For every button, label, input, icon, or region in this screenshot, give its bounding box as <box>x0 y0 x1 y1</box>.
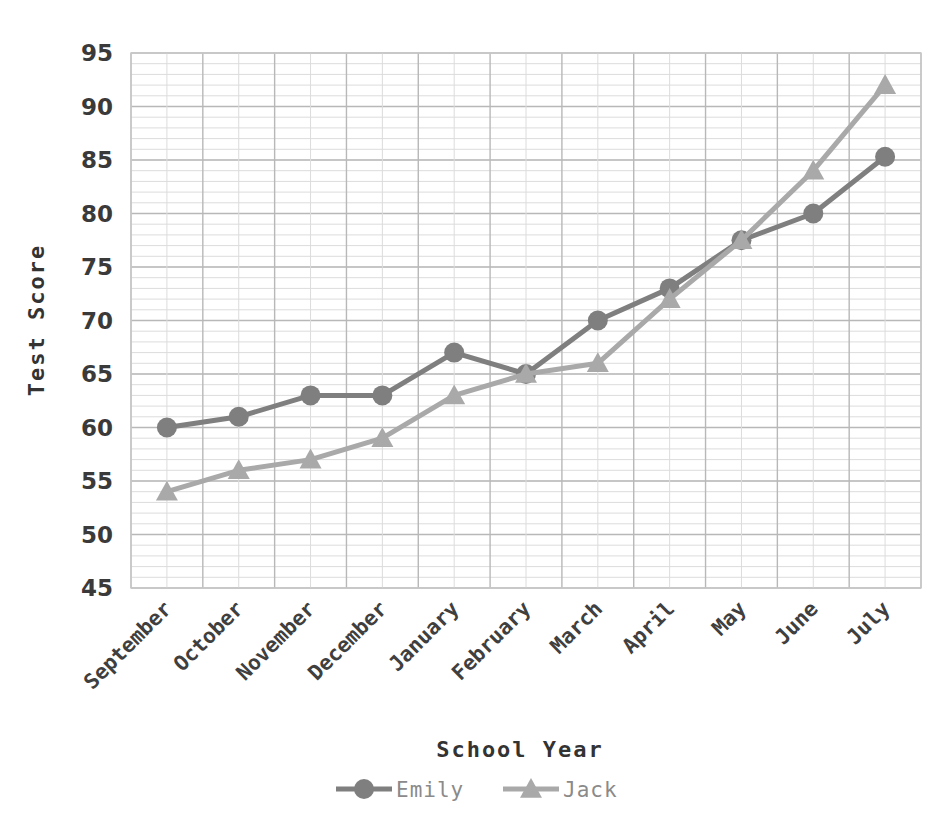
x-axis-title: School Year <box>436 737 604 762</box>
y-tick-label: 55 <box>81 468 113 494</box>
data-point-emily <box>372 385 392 405</box>
y-tick-label: 70 <box>81 308 113 334</box>
y-axis-title: Test Score <box>24 244 49 396</box>
y-tick-label: 60 <box>81 415 113 441</box>
y-tick-label: 50 <box>81 522 113 548</box>
y-tick-label: 65 <box>81 361 113 387</box>
data-point-emily <box>444 343 464 363</box>
chart-canvas: 4550556065707580859095 SeptemberOctoberN… <box>0 0 948 838</box>
data-point-emily <box>157 418 177 438</box>
data-point-emily <box>229 407 249 427</box>
data-point-emily <box>301 385 321 405</box>
y-tick-label: 95 <box>81 40 113 66</box>
y-tick-label: 85 <box>81 147 113 173</box>
y-tick-label: 75 <box>81 254 113 280</box>
data-point-emily <box>875 147 895 167</box>
circle-marker <box>354 779 374 799</box>
data-point-emily <box>588 311 608 331</box>
y-tick-label: 80 <box>81 201 113 227</box>
data-point-emily <box>803 204 823 224</box>
legend-label: Jack <box>563 778 618 802</box>
chart-background <box>0 0 948 838</box>
line-chart: 4550556065707580859095 SeptemberOctoberN… <box>0 0 948 838</box>
legend-label: Emily <box>396 778 464 802</box>
y-tick-label: 90 <box>81 94 113 120</box>
y-tick-label: 45 <box>81 575 113 601</box>
